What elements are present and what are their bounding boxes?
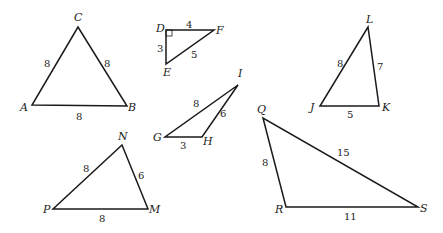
vertex-label: G <box>153 131 162 144</box>
vertex-label: F <box>215 24 224 37</box>
side-length-label: 8 <box>262 157 268 168</box>
vertex-label: L <box>365 13 373 26</box>
vertex-label: M <box>148 203 161 216</box>
triangle-outline <box>53 145 148 209</box>
vertex-label: C <box>74 11 83 24</box>
vertex-label: Q <box>257 103 266 116</box>
side-length-label: 8 <box>193 98 199 109</box>
side-length-label: 3 <box>157 43 163 54</box>
vertex-label: I <box>237 67 243 80</box>
side-length-label: 5 <box>347 109 353 120</box>
triangle-diagram: CAB888DFE435IGH863LJK875NMP868QRS15811 <box>0 0 443 233</box>
side-length-label: 4 <box>186 19 192 30</box>
vertex-label: P <box>42 203 51 216</box>
side-length-label: 11 <box>344 211 357 222</box>
triangle-outline <box>320 27 379 106</box>
vertex-label: H <box>202 135 213 148</box>
triangle-nmp: NMP868 <box>42 130 161 224</box>
vertex-label: B <box>127 101 136 114</box>
side-length-label: 6 <box>138 170 144 181</box>
vertex-label: K <box>381 101 391 114</box>
side-length-label: 8 <box>76 111 82 122</box>
triangle-outline <box>166 30 214 64</box>
vertex-label: E <box>162 66 171 79</box>
side-length-label: 8 <box>104 58 110 69</box>
triangle-def: DFE435 <box>155 19 224 79</box>
side-length-label: 8 <box>337 58 343 69</box>
triangle-outline <box>263 118 418 207</box>
right-angle-marker <box>166 30 172 36</box>
triangle-abc: CAB888 <box>19 11 136 122</box>
side-length-label: 8 <box>99 213 105 224</box>
side-length-label: 6 <box>220 108 226 119</box>
side-length-label: 5 <box>191 49 197 60</box>
vertex-label: A <box>19 101 28 114</box>
vertex-label: J <box>308 101 315 114</box>
side-length-label: 3 <box>180 140 186 151</box>
triangle-ghi: IGH863 <box>153 67 243 151</box>
side-length-label: 8 <box>44 58 50 69</box>
side-length-label: 8 <box>83 163 89 174</box>
side-length-label: 15 <box>337 147 350 158</box>
vertex-label: N <box>117 130 128 143</box>
vertex-label: D <box>155 22 165 35</box>
triangle-jkl: LJK875 <box>308 13 391 120</box>
vertex-label: R <box>274 203 283 216</box>
triangle-qrs: QRS15811 <box>257 103 428 222</box>
triangle-outline <box>165 85 238 137</box>
side-length-label: 7 <box>377 61 383 72</box>
vertex-label: S <box>420 202 428 215</box>
